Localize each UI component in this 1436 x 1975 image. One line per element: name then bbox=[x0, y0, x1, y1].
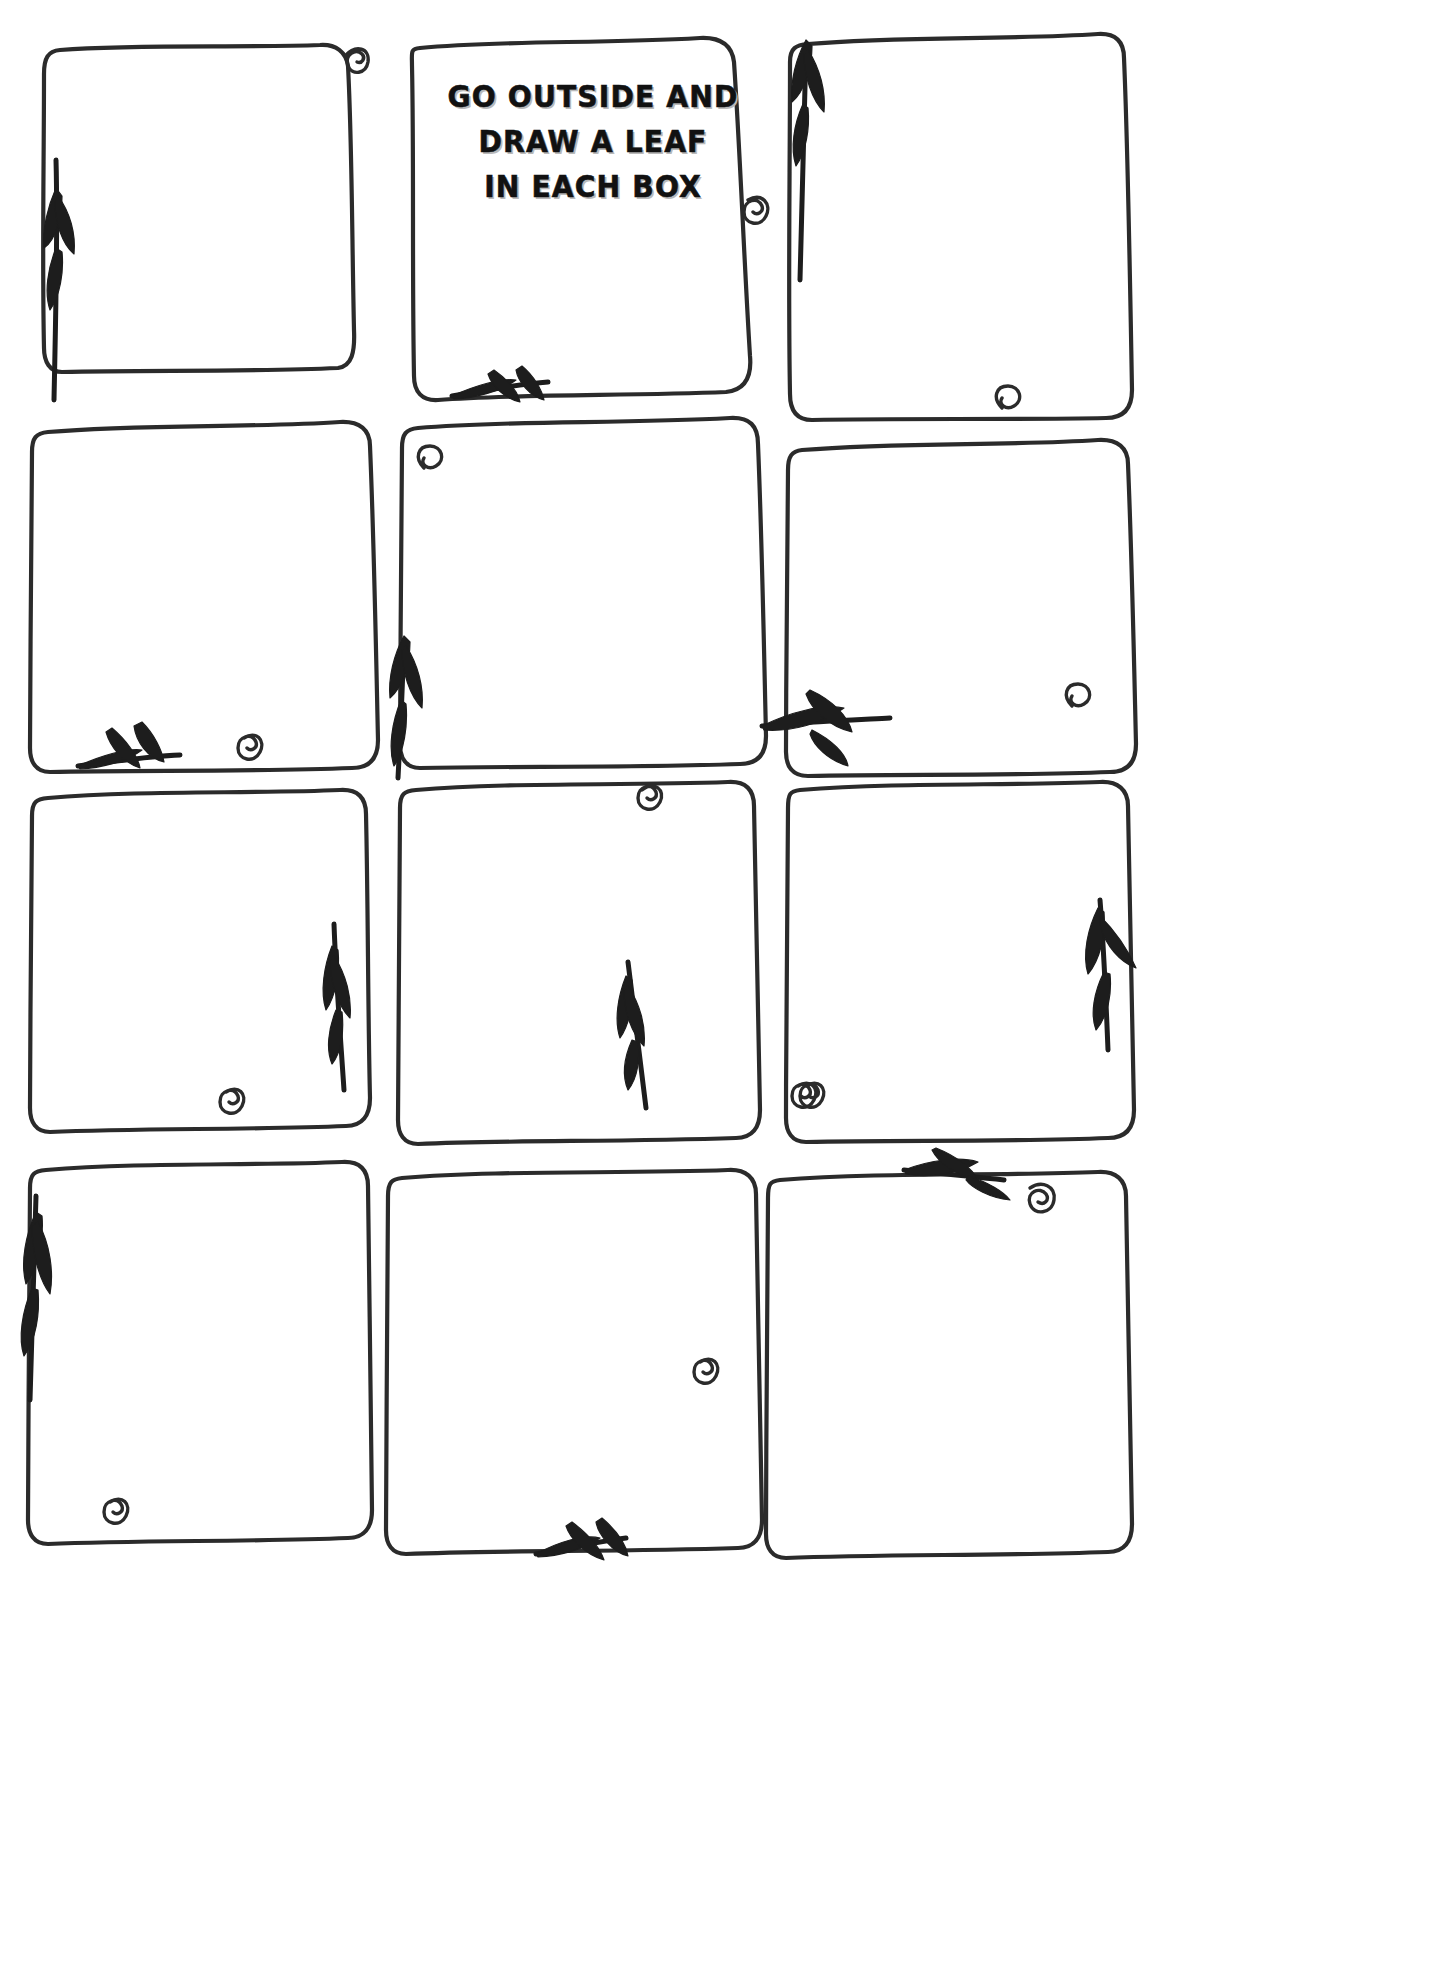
box-10[interactable] bbox=[21, 1162, 372, 1544]
leaf-spray-top-left-upward-3 bbox=[792, 40, 825, 280]
leaf-spray-bottom-left-upward-5 bbox=[390, 636, 423, 778]
leaf-spray-left-pointing-right-6 bbox=[762, 690, 890, 766]
leaf-spray-bottom-left-downward-8 bbox=[617, 962, 646, 1108]
leaf-spray-left-downward-10 bbox=[21, 1196, 51, 1400]
worksheet-page: GO OUTSIDE AND DRAW A LEAF IN EACH BOX bbox=[0, 0, 1436, 1975]
box-5[interactable] bbox=[390, 418, 766, 778]
box-3[interactable] bbox=[789, 34, 1132, 420]
box-7[interactable] bbox=[30, 790, 370, 1132]
box-4[interactable] bbox=[30, 422, 378, 772]
box-1[interactable] bbox=[43, 45, 368, 400]
box-2[interactable] bbox=[412, 38, 768, 402]
leaf-spray-bottom-pointing-left-11 bbox=[536, 1518, 628, 1560]
box-6[interactable] bbox=[762, 440, 1136, 776]
leaf-spray-right-downward-7 bbox=[323, 924, 350, 1090]
leaf-spray-bottom-left-4 bbox=[78, 722, 180, 769]
box-11[interactable] bbox=[386, 1170, 762, 1560]
box-9[interactable] bbox=[786, 782, 1136, 1142]
box-12[interactable] bbox=[766, 1148, 1132, 1558]
box-8[interactable] bbox=[398, 782, 816, 1144]
hand-drawn-grid bbox=[0, 0, 1436, 1975]
